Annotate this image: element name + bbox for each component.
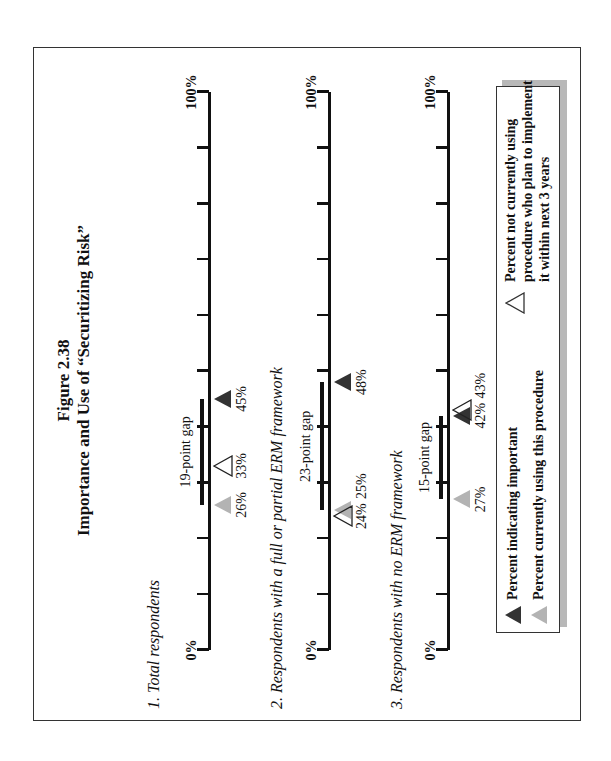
axis-tick — [317, 91, 329, 94]
axis-tick — [436, 314, 448, 317]
axis-tick — [197, 258, 209, 261]
legend-plan-icon — [505, 292, 525, 314]
axis-tick — [436, 370, 448, 373]
axis-tick — [436, 202, 448, 205]
value-important: 48% — [354, 369, 370, 395]
marker-plan-to-implement — [452, 399, 472, 421]
gap-bar — [200, 399, 204, 505]
axis-tick — [317, 593, 329, 596]
axis-tick — [197, 314, 209, 317]
axis-tick — [317, 537, 329, 540]
legend-important-icon — [505, 606, 521, 624]
legend-important-label: Percent indicating important — [504, 427, 521, 600]
axis-tick — [197, 593, 209, 596]
legend-plan-line-2: procedure who plan to implement — [519, 80, 536, 282]
marker-plan-to-implement — [333, 505, 353, 527]
gap-label: 15-point gap — [417, 422, 433, 493]
axis-tick — [197, 202, 209, 205]
gap-bar — [320, 382, 324, 510]
marker-currently-using — [453, 490, 470, 508]
axis-tick — [197, 370, 209, 373]
legend-plan-line-1: Percent not currently using — [502, 119, 519, 282]
axis-tick — [317, 202, 329, 205]
gap-label: 23-point gap — [298, 411, 314, 482]
value-important: 45% — [234, 386, 250, 412]
axis-tick — [197, 649, 209, 652]
axis-tick — [436, 258, 448, 261]
figure-number: Figure 2.38 — [54, 0, 74, 761]
value-currently-using: 26% — [234, 492, 250, 518]
legend: Percent indicating important Percent cur… — [496, 86, 560, 633]
row-label: 1. Total respondents — [145, 580, 163, 709]
axis-tick — [317, 649, 329, 652]
axis-tick — [317, 314, 329, 317]
axis-tick — [436, 146, 448, 149]
row-label: 3. Respondents with no ERM framework — [388, 450, 406, 709]
gap-bar — [439, 416, 443, 500]
value-currently-using: 25% — [354, 473, 370, 499]
figure-title: Importance and Use of “Securitizing Risk… — [74, 0, 94, 761]
axis-tick — [317, 370, 329, 373]
legend-currently-using-icon — [531, 606, 547, 624]
legend-currently-using-label: Percent currently using this procedure — [530, 370, 547, 600]
value-important: 42% — [473, 403, 489, 429]
figure-canvas: Figure 2.38 Importance and Use of “Secur… — [0, 0, 611, 761]
marker-plan-to-implement — [213, 455, 233, 477]
axis-tick — [197, 91, 209, 94]
value-plan-to-implement: 33% — [234, 453, 250, 479]
legend-plan-line-3: it within next 3 years — [536, 157, 553, 282]
axis-tick — [436, 91, 448, 94]
axis-tick — [436, 537, 448, 540]
gap-label: 19-point gap — [178, 416, 194, 487]
axis-tick — [436, 593, 448, 596]
row-label: 2. Respondents with a full or partial ER… — [268, 367, 286, 709]
marker-important — [334, 373, 351, 391]
value-currently-using: 27% — [473, 487, 489, 513]
value-plan-to-implement: 24% — [354, 503, 370, 529]
axis-tick — [317, 258, 329, 261]
marker-important — [214, 390, 231, 408]
value-plan-to-implement: 43% — [473, 373, 489, 399]
axis-tick — [317, 146, 329, 149]
axis-tick — [197, 146, 209, 149]
axis-tick — [436, 649, 448, 652]
axis-tick — [197, 537, 209, 540]
marker-currently-using — [214, 496, 231, 514]
